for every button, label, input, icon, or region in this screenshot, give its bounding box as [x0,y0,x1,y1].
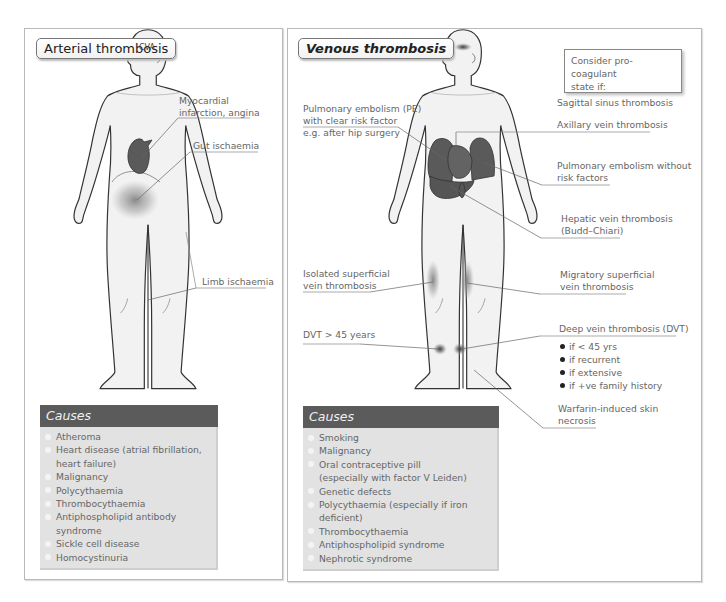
migratory-label-2: vein thrombosis [560,281,634,293]
cause-item: Antiphospholipid antibody syndrome [44,510,212,537]
bullet-icon [308,488,314,494]
bullet-icon [560,357,565,362]
dvt-over-45-label: DVT > 45 years [303,329,375,341]
warfarin-label-1: Warfarin-induced skin [558,403,658,415]
bullet-icon [308,435,314,441]
superficial-vein-blur-right [460,260,474,300]
cause-item: Sickle cell disease [44,537,212,550]
bullet-icon [308,448,314,454]
venous-title: Venous thrombosis [298,38,454,59]
pro-coagulant-line2: state if: [571,80,675,93]
pe-risk-label-1: Pulmonary embolism (PE) [303,103,421,115]
dvt-conditions-list: if < 45 yrs if recurrent if extensive if… [559,340,662,392]
venous-causes-box: Causes Smoking Malignancy Oral contracep… [303,406,499,571]
bullet-icon [308,461,314,467]
superficial-label-2: vein thrombosis [303,280,377,292]
bullet-icon [45,434,51,440]
pe-no-risk-label-2: risk factors [557,172,608,184]
bullet-icon [560,370,565,375]
cause-item: Malignancy [307,444,493,457]
bullet-icon [45,487,51,493]
cause-item: Malignancy [44,470,212,483]
axillary-vein-label: Axillary vein thrombosis [557,119,668,131]
hepatic-label-1: Hepatic vein thrombosis [561,213,673,225]
gut-ischaemia-label: Gut ischaemia [193,140,259,152]
sagittal-sinus-spot [454,43,472,51]
dvt-condition: if < 45 yrs [559,340,662,353]
cause-item: Thrombocythaemia [44,497,212,510]
pe-no-risk-label-1: Pulmonary embolism without [557,160,691,172]
mi-label-line1: Myocardial [179,95,229,107]
pe-risk-label-2: with clear risk factor [303,115,397,127]
pe-risk-label-3: e.g. after hip surgery [303,127,400,139]
mi-label-line2: infarction, angina [179,107,260,119]
hepatic-label-2: (Budd–Chiari) [561,225,623,237]
limb-ischaemia-label: Limb ischaemia [202,276,274,288]
bullet-icon [45,474,51,480]
migratory-label-1: Migratory superficial [560,269,655,281]
cause-item: Antiphospholipid syndrome [307,538,493,551]
bullet-icon [308,542,314,548]
arterial-causes-header: Causes [40,405,218,427]
dvt-condition: if recurrent [559,353,662,366]
cause-item: Thrombocythaemia [307,525,493,538]
venous-causes-header: Causes [303,406,499,428]
cause-item: Atheroma [44,430,212,443]
bullet-icon [45,554,51,560]
dvt-condition: if +ve family history [559,379,662,392]
cause-item: Nephrotic syndrome [307,552,493,565]
venous-causes-list: Smoking Malignancy Oral contraceptive pi… [303,428,499,571]
cause-item: Oral contraceptive pill(especially with … [307,458,493,485]
arterial-causes-box: Causes Atheroma Heart disease (atrial fi… [40,405,218,570]
cause-item: Genetic defects [307,485,493,498]
bullet-icon [560,344,565,349]
arterial-title: Arterial thrombosis [36,38,176,59]
bullet-icon [45,541,51,547]
bullet-icon [308,528,314,534]
cause-item: Homocystinuria [44,551,212,564]
arterial-causes-list: Atheroma Heart disease (atrial fibrillat… [40,427,218,570]
dvt-condition: if extensive [559,366,662,379]
cause-item: Smoking [307,431,493,444]
pro-coagulant-box: Consider pro-coagulant state if: [564,49,682,93]
cause-item: Polycythaemia [44,484,212,497]
bullet-icon [308,555,314,561]
warfarin-label-2: necrosis [558,415,596,427]
superficial-label-1: Isolated superficial [303,268,390,280]
bullet-icon [45,501,51,507]
bullet-icon [45,514,51,520]
venous-body-figure [389,30,537,389]
cause-item: Heart disease (atrial fibrillation,heart… [44,443,212,470]
superficial-vein-blur-left [426,260,440,300]
bullet-icon [560,383,565,388]
sagittal-sinus-label: Sagittal sinus thrombosis [557,97,673,109]
gut-ischaemia-blur [111,180,159,220]
cause-item: Polycythaemia (especially if iron defici… [307,498,493,525]
bullet-icon [45,447,51,453]
dvt-label: Deep vein thrombosis (DVT) [559,323,689,335]
cva-label: CVA [139,42,155,54]
bullet-icon [308,502,314,508]
dvt-spot-right [453,343,467,355]
pro-coagulant-line1: Consider pro-coagulant [571,54,675,80]
